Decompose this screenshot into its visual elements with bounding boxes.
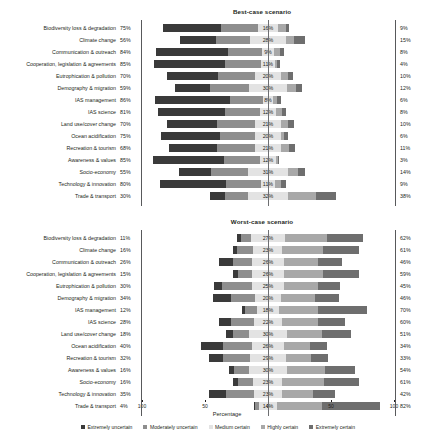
bar-segment-extremely-uncertain xyxy=(201,342,222,350)
legend-swatch-icon xyxy=(261,425,265,429)
category-label: Technology & innovation xyxy=(0,181,120,187)
category-label: Technology & innovation xyxy=(0,391,120,397)
bar-segment-extremely-uncertain xyxy=(155,96,231,104)
bar-segment-highly-certain xyxy=(285,234,327,242)
category-label: Demography & migration xyxy=(0,295,120,301)
bar-segment-highly-certain xyxy=(286,36,295,44)
bar-segment-extremely-certain xyxy=(277,60,280,68)
legend-item[interactable]: Moderately uncertain xyxy=(143,424,197,430)
bar-segment-moderately-uncertain xyxy=(230,96,263,104)
bar-segment-moderately-uncertain xyxy=(234,366,249,374)
bar-segment-extremely-certain xyxy=(288,120,294,128)
chart-row: Cooperation, legislation & agreements15%… xyxy=(0,268,436,280)
category-label: IAS management xyxy=(0,97,120,103)
right-total-percentage: 45% xyxy=(394,283,420,289)
left-total-percentage: 30% xyxy=(120,283,142,289)
bar-segment-extremely-certain xyxy=(318,318,344,326)
bar-segment-extremely-uncertain xyxy=(175,84,210,92)
left-total-percentage: 40% xyxy=(120,343,142,349)
chart-row: Demography & migration34%20%46% xyxy=(0,292,436,304)
chart-row: IAS management12%18%70% xyxy=(0,304,436,316)
right-total-percentage: 60% xyxy=(394,319,420,325)
bar-segment-highly-certain xyxy=(282,378,324,386)
left-total-percentage: 70% xyxy=(120,73,142,79)
chart-row: Recreation & tourism68%21%11% xyxy=(0,142,436,154)
category-label: Trade & transport xyxy=(0,193,120,199)
left-total-percentage: 56% xyxy=(120,37,142,43)
chart-row: Land use/cover change70%21%10% xyxy=(0,118,436,130)
legend-item[interactable]: Highly certain xyxy=(261,424,298,430)
chart-row: Eutrophication & pollution70%20%10% xyxy=(0,70,436,82)
bar-segment-extremely-certain xyxy=(277,96,281,104)
stacked-bar: 9% xyxy=(156,48,283,56)
stacked-bar: 20% xyxy=(161,132,288,140)
chart-row: Ocean acidification40%26%34% xyxy=(0,340,436,352)
stacked-bar-chart: Best-case scenario Biodiversity loss & d… xyxy=(0,0,436,446)
panel-best-case-title: Best-case scenario xyxy=(0,8,436,15)
chart-row: Demography & migration59%30%12% xyxy=(0,82,436,94)
legend-item[interactable]: Extremely certain xyxy=(309,424,355,430)
bar-segment-highly-certain xyxy=(287,366,325,374)
category-label: Land use/cover change xyxy=(0,121,120,127)
category-label: Ocean acidification xyxy=(0,133,120,139)
bar-segment-extremely-certain xyxy=(280,48,284,56)
bar-segment-extremely-uncertain xyxy=(160,180,226,188)
category-label: Cooperation, legislation & agreements xyxy=(0,61,120,67)
bar-segment-highly-certain xyxy=(284,282,318,290)
chart-row: Trade & transport30%32%38% xyxy=(0,190,436,202)
legend-item[interactable]: Extremely uncertain xyxy=(81,424,133,430)
chart-row: Ocean acidification75%20%6% xyxy=(0,130,436,142)
chart-row: Awareness & values85%12%3% xyxy=(0,154,436,166)
bar-segment-highly-certain xyxy=(286,354,311,362)
stacked-bar: 20% xyxy=(213,294,339,302)
bar-segment-extremely-uncertain xyxy=(210,192,225,200)
category-label: Eutrophication & pollution xyxy=(0,283,120,289)
left-total-percentage: 28% xyxy=(120,319,142,325)
zero-line-best xyxy=(268,20,269,206)
bar-segment-extremely-certain xyxy=(278,156,279,164)
chart-row: Biodiversity loss & degradation11%27%62% xyxy=(0,232,436,244)
stacked-bar: 28% xyxy=(180,36,305,44)
axis-tick-mark xyxy=(205,400,206,402)
left-total-percentage: 18% xyxy=(120,331,142,337)
right-total-percentage: 70% xyxy=(394,307,420,313)
bar-segment-extremely-uncertain xyxy=(214,282,222,290)
axis-tick-label: 100 xyxy=(390,403,398,409)
plot-left-rule-best xyxy=(141,20,142,206)
axis-tick-label: 50 xyxy=(328,403,334,409)
left-total-percentage: 75% xyxy=(120,133,142,139)
bar-segment-extremely-certain xyxy=(311,354,327,362)
chart-row: IAS science28%22%60% xyxy=(0,316,436,328)
category-label: Socio-economy xyxy=(0,379,120,385)
right-total-percentage: 6% xyxy=(394,97,420,103)
left-total-percentage: 68% xyxy=(120,145,142,151)
axis-tick-mark xyxy=(142,400,143,402)
left-total-percentage: 26% xyxy=(120,259,142,265)
left-total-percentage: 85% xyxy=(120,157,142,163)
bar-segment-moderately-uncertain xyxy=(216,36,250,44)
legend-item[interactable]: Medium certain xyxy=(209,424,250,430)
right-total-percentage: 8% xyxy=(394,109,420,115)
bar-segment-extremely-uncertain xyxy=(156,48,228,56)
stacked-bar: 21% xyxy=(167,120,294,128)
bar-segment-extremely-certain xyxy=(289,144,295,152)
right-total-percentage: 3% xyxy=(394,157,420,163)
bar-segment-highly-certain xyxy=(281,72,289,80)
bar-segment-extremely-uncertain xyxy=(153,156,224,164)
bar-segment-extremely-certain xyxy=(318,306,367,314)
bar-segment-highly-certain xyxy=(282,246,322,254)
right-total-percentage: 15% xyxy=(394,37,420,43)
stacked-bar: 30% xyxy=(226,330,351,338)
axis-tick-mark xyxy=(331,400,332,402)
bar-segment-highly-certain xyxy=(281,294,315,302)
stacked-bar: 26% xyxy=(233,270,359,278)
x-axis-title: Percentage xyxy=(0,411,436,417)
right-total-percentage: 9% xyxy=(394,181,420,187)
bar-segment-highly-certain xyxy=(288,192,316,200)
category-label: Communication & outreach xyxy=(0,49,120,55)
bar-segment-moderately-uncertain xyxy=(217,120,255,128)
left-total-percentage: 70% xyxy=(120,121,142,127)
chart-row: Eutrophication & pollution30%25%45% xyxy=(0,280,436,292)
bar-segment-moderately-uncertain xyxy=(233,330,249,338)
right-total-percentage: 6% xyxy=(394,133,420,139)
